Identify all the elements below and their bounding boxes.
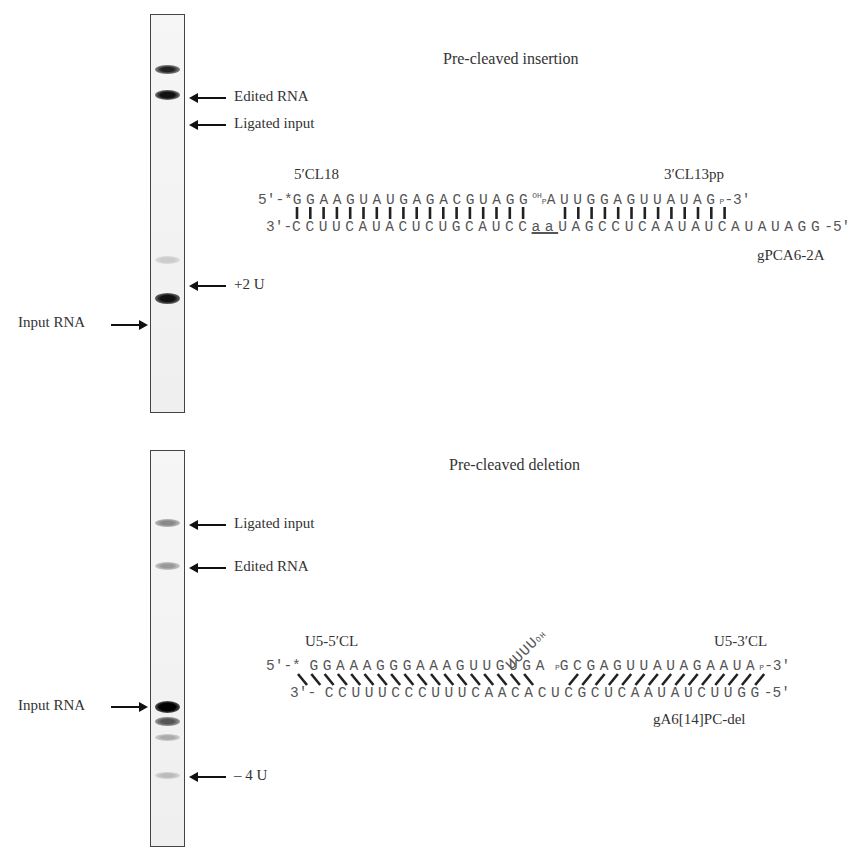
- base-pair-line: [338, 674, 347, 685]
- base-pair-line: [742, 674, 751, 685]
- bottom-strand-deletion: 3′- CCUUUCCCUUUCAACACUCGCUCAAUAUCUUGG-5′: [290, 685, 790, 701]
- base-pair-line: [755, 674, 764, 685]
- base-pair-line: [418, 674, 427, 685]
- base-pair-line: [524, 674, 533, 685]
- base-pair-line: [351, 674, 360, 685]
- base-pair-line: [298, 674, 307, 685]
- base-pair-line: [582, 674, 591, 685]
- base-pair-line: [471, 674, 480, 685]
- guide-sequence: CCUUUCCCUUUCAACACUCGCUCAAUAUCUUGG: [325, 685, 764, 701]
- base-pair-line: [649, 674, 658, 685]
- guide-label-ga6-14-pc-del: gA6[14]PC-del: [653, 711, 746, 728]
- strand-suffix: -5′: [764, 685, 790, 701]
- base-pair-line: [715, 674, 724, 685]
- base-pair-line: [636, 674, 645, 685]
- base-pair-line: [311, 674, 320, 685]
- base-pair-line: [729, 674, 738, 685]
- base-pair-line: [569, 674, 578, 685]
- base-pair-line: [484, 674, 493, 685]
- base-pair-line: [404, 674, 413, 685]
- base-pair-line: [325, 674, 334, 685]
- base-pair-line: [458, 674, 467, 685]
- base-pair-line: [511, 674, 520, 685]
- base-pair-line: [609, 674, 618, 685]
- base-pair-line: [662, 674, 671, 685]
- base-pair-line: [689, 674, 698, 685]
- base-pair-line: [702, 674, 711, 685]
- base-pair-line: [378, 674, 387, 685]
- base-pair-line: [675, 674, 684, 685]
- base-pair-line: [391, 674, 400, 685]
- base-pair-line: [498, 674, 507, 685]
- base-pair-line: [596, 674, 605, 685]
- base-pair-line: [622, 674, 631, 685]
- base-pair-line: [431, 674, 440, 685]
- base-pair-lines-deletion: [0, 0, 866, 866]
- base-pair-line: [365, 674, 374, 685]
- base-pair-line: [444, 674, 453, 685]
- strand-prefix: 3′-: [290, 685, 316, 701]
